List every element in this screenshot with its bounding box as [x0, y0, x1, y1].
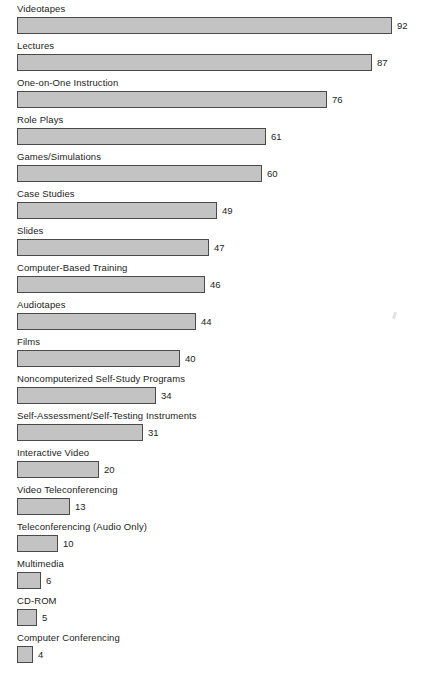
bar-row: Computer-Based Training46: [0, 261, 424, 298]
bar-row: One-on-One Instruction76: [0, 76, 424, 113]
bar-row: Video Teleconferencing13: [0, 483, 424, 520]
bar-track-computer-based-training: [17, 276, 205, 293]
bar-computer-conferencing: [17, 646, 33, 663]
bar-value-label-teleconferencing-audio-only: 10: [63, 536, 74, 551]
bar-value-label-cd-rom: 5: [42, 610, 47, 625]
bar-row: Audiotapes44: [0, 298, 424, 335]
bar-category-label-multimedia: Multimedia: [17, 557, 64, 570]
bar-teleconferencing-audio-only: [17, 535, 58, 552]
bar-row: CD-ROM5: [0, 594, 424, 631]
bar-value-label-self-assessment-self-testing-instruments: 31: [148, 425, 159, 440]
bar-value-label-one-on-one-instruction: 76: [332, 92, 343, 107]
bar-track-teleconferencing-audio-only: [17, 535, 58, 552]
bar-multimedia: [17, 572, 41, 589]
bar-self-assessment-self-testing-instruments: [17, 424, 143, 441]
bar-row: Computer Conferencing4: [0, 631, 424, 668]
bar-value-label-noncomputerized-self-study-programs: 34: [161, 388, 172, 403]
bar-track-slides: [17, 239, 209, 256]
bar-track-videotapes: [17, 17, 392, 34]
bar-track-films: [17, 350, 180, 367]
bar-videotapes: [17, 17, 392, 34]
bar-track-computer-conferencing: [17, 646, 33, 663]
bar-case-studies: [17, 202, 217, 219]
bar-audiotapes: [17, 313, 196, 330]
bar-category-label-video-teleconferencing: Video Teleconferencing: [17, 483, 118, 496]
bar-category-label-self-assessment-self-testing-instruments: Self-Assessment/Self-Testing Instruments: [17, 409, 197, 422]
bar-track-self-assessment-self-testing-instruments: [17, 424, 143, 441]
bar-category-label-audiotapes: Audiotapes: [17, 298, 66, 311]
bar-video-teleconferencing: [17, 498, 70, 515]
bar-track-multimedia: [17, 572, 41, 589]
bar-row: Teleconferencing (Audio Only)10: [0, 520, 424, 557]
bar-value-label-computer-based-training: 46: [210, 277, 221, 292]
bar-value-label-computer-conferencing: 4: [38, 647, 43, 662]
horizontal-bar-chart: Videotapes92Lectures87One-on-One Instruc…: [0, 0, 424, 681]
bar-value-label-audiotapes: 44: [201, 314, 212, 329]
bar-value-label-case-studies: 49: [222, 203, 233, 218]
bar-track-games-simulations: [17, 165, 262, 182]
bar-value-label-videotapes: 92: [397, 18, 408, 33]
bar-category-label-lectures: Lectures: [17, 39, 54, 52]
bar-track-audiotapes: [17, 313, 196, 330]
bar-category-label-computer-based-training: Computer-Based Training: [17, 261, 127, 274]
bar-row: Multimedia6: [0, 557, 424, 594]
bar-track-role-plays: [17, 128, 266, 145]
bar-value-label-films: 40: [185, 351, 196, 366]
bar-row: Slides47: [0, 224, 424, 261]
bar-value-label-interactive-video: 20: [104, 462, 115, 477]
bar-category-label-teleconferencing-audio-only: Teleconferencing (Audio Only): [17, 520, 147, 533]
bar-value-label-games-simulations: 60: [267, 166, 278, 181]
bar-role-plays: [17, 128, 266, 145]
bar-category-label-role-plays: Role Plays: [17, 113, 63, 126]
bar-lectures: [17, 54, 372, 71]
bar-row: Interactive Video20: [0, 446, 424, 483]
bar-value-label-lectures: 87: [377, 55, 388, 70]
bar-row: Role Plays61: [0, 113, 424, 150]
bar-row: Self-Assessment/Self-Testing Instruments…: [0, 409, 424, 446]
bar-category-label-computer-conferencing: Computer Conferencing: [17, 631, 120, 644]
bar-computer-based-training: [17, 276, 205, 293]
bar-row: Case Studies49: [0, 187, 424, 224]
bar-category-label-cd-rom: CD-ROM: [17, 594, 57, 607]
bar-games-simulations: [17, 165, 262, 182]
bar-value-label-role-plays: 61: [271, 129, 282, 144]
bar-category-label-films: Films: [17, 335, 40, 348]
bar-row: Films40: [0, 335, 424, 372]
bar-interactive-video: [17, 461, 99, 478]
bar-slides: [17, 239, 209, 256]
bar-category-label-one-on-one-instruction: One-on-One Instruction: [17, 76, 118, 89]
bar-track-noncomputerized-self-study-programs: [17, 387, 156, 404]
bar-category-label-case-studies: Case Studies: [17, 187, 75, 200]
bar-value-label-multimedia: 6: [46, 573, 51, 588]
bar-track-case-studies: [17, 202, 217, 219]
bar-track-interactive-video: [17, 461, 99, 478]
bar-track-cd-rom: [17, 609, 37, 626]
bar-category-label-games-simulations: Games/Simulations: [17, 150, 101, 163]
bar-films: [17, 350, 180, 367]
bar-row: Videotapes92: [0, 2, 424, 39]
bar-row: Games/Simulations60: [0, 150, 424, 187]
bar-category-label-noncomputerized-self-study-programs: Noncomputerized Self-Study Programs: [17, 372, 185, 385]
bar-category-label-slides: Slides: [17, 224, 43, 237]
bar-noncomputerized-self-study-programs: [17, 387, 156, 404]
bar-one-on-one-instruction: [17, 91, 327, 108]
bar-category-label-videotapes: Videotapes: [17, 2, 65, 15]
bar-track-one-on-one-instruction: [17, 91, 327, 108]
bar-row: Lectures87: [0, 39, 424, 76]
bar-row: Noncomputerized Self-Study Programs34: [0, 372, 424, 409]
bar-track-lectures: [17, 54, 372, 71]
bar-track-video-teleconferencing: [17, 498, 70, 515]
bar-cd-rom: [17, 609, 37, 626]
bar-value-label-video-teleconferencing: 13: [75, 499, 86, 514]
bar-value-label-slides: 47: [214, 240, 225, 255]
bar-category-label-interactive-video: Interactive Video: [17, 446, 89, 459]
